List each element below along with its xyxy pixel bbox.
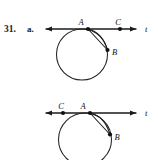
figure-top-circle <box>57 29 108 80</box>
figure-bottom-point-c-dot <box>61 111 65 115</box>
figure-bottom-point-a-dot <box>88 111 92 115</box>
figure-top-point-a-dot <box>86 27 90 31</box>
figure-top-label-b: B <box>112 47 117 57</box>
figure-bottom-circle <box>59 113 112 160</box>
figure-top-point-c-dot <box>118 27 122 31</box>
figure-top-label-a: A <box>77 17 84 27</box>
geometry-figure-svg: 31. a. A B C t <box>0 0 158 160</box>
figure-bottom-point-b-dot <box>108 132 112 136</box>
figure-bottom-label-c: C <box>58 101 64 111</box>
figure-panel: 31. a. A B C t <box>0 0 158 160</box>
figure-bottom-label-a: A <box>79 101 86 111</box>
figure-top-label-c: C <box>115 17 121 27</box>
figure-bottom: A B C t <box>46 101 148 160</box>
figure-bottom-label-b: B <box>115 132 120 142</box>
figure-top-point-b-dot <box>105 48 109 52</box>
figure-top: A B C t <box>46 17 148 80</box>
figure-top-axis-label: t <box>145 24 148 34</box>
figure-bottom-axis-label: t <box>145 108 148 118</box>
figure-top-chord-ab <box>88 29 108 50</box>
figure-bottom-chord-ab <box>90 113 110 135</box>
problem-number: 31. <box>4 24 16 34</box>
problem-part-label: a. <box>27 24 34 34</box>
